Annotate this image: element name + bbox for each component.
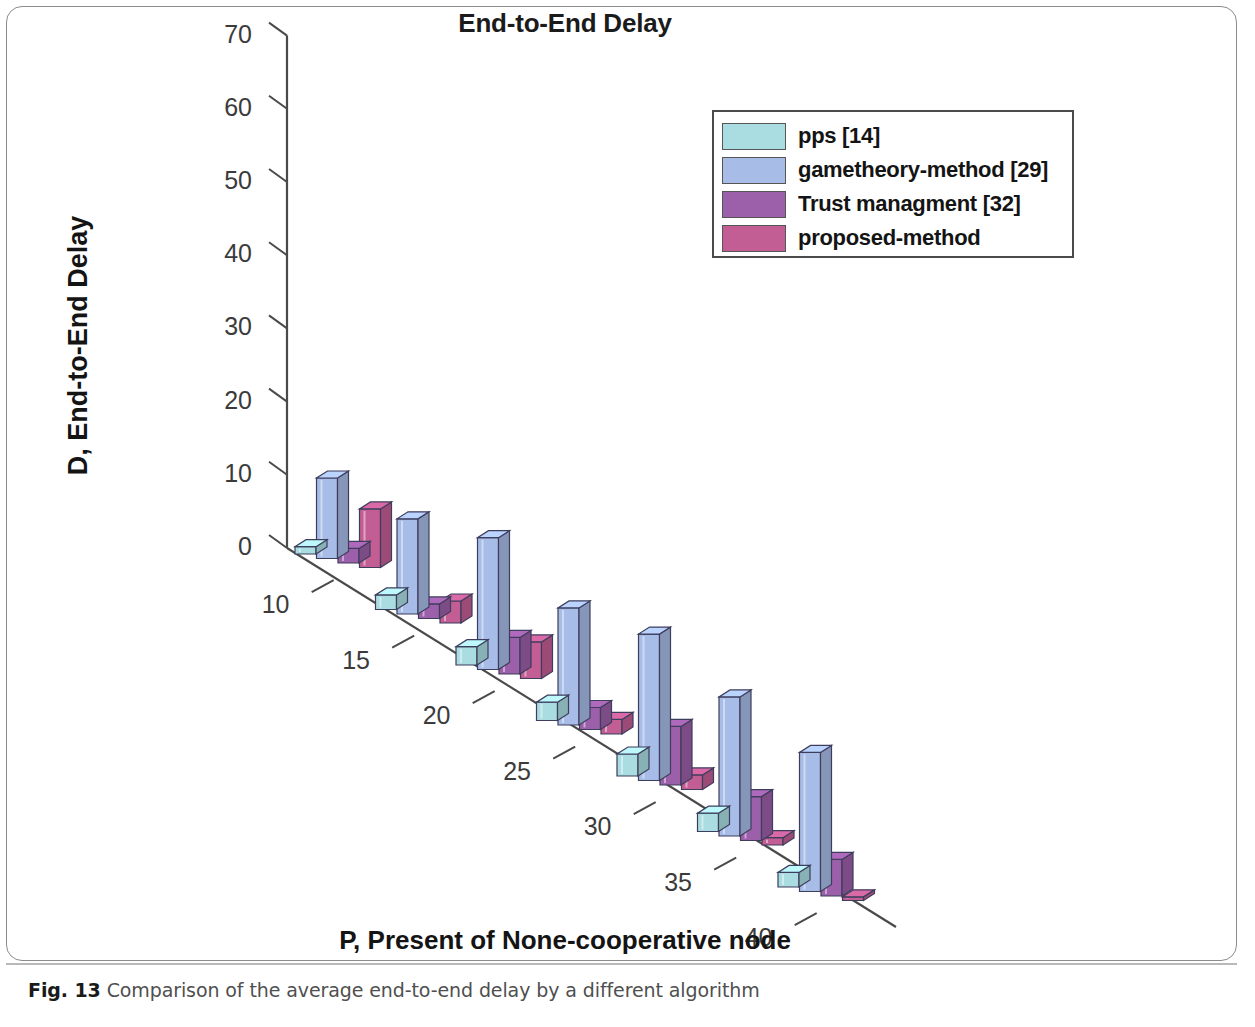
caption-number: Fig. 13 [28, 979, 101, 1001]
x-tick-label: 10 [262, 590, 290, 619]
legend-swatch-icon [722, 123, 786, 150]
legend-swatch-icon [722, 157, 786, 184]
bar-3d[interactable] [376, 588, 408, 610]
bar-3d[interactable] [698, 806, 730, 831]
caption-text: Comparison of the average end-to-end del… [107, 979, 760, 1001]
legend-item[interactable]: gametheory-method [29] [722, 154, 1062, 186]
legend-label: proposed-method [798, 225, 981, 251]
legend-label: gametheory-method [29] [798, 157, 1048, 183]
y-axis-label: D, End-to-End Delay [63, 176, 94, 516]
x-tick-label: 35 [664, 868, 692, 897]
legend-item[interactable]: Trust managment [32] [722, 188, 1062, 220]
y-tick-label: 10 [192, 459, 252, 488]
figure-container: End-to-End Delay 01020304050607010152025… [0, 0, 1255, 1027]
legend-item[interactable]: pps [14] [722, 120, 1062, 152]
y-tick-label: 30 [192, 312, 252, 341]
legend-label: pps [14] [798, 123, 880, 149]
chart-legend: pps [14]gametheory-method [29]Trust mana… [712, 110, 1074, 258]
x-tick-label: 20 [423, 701, 451, 730]
y-tick-label: 70 [192, 20, 252, 49]
y-tick-label: 60 [192, 93, 252, 122]
y-axis-ticks [269, 23, 287, 548]
bar-3d[interactable] [617, 747, 649, 776]
bar-3d[interactable] [456, 640, 488, 665]
x-tick-label: 30 [584, 812, 612, 841]
legend-swatch-icon [722, 191, 786, 218]
legend-item[interactable]: proposed-method [722, 222, 1062, 254]
y-tick-label: 40 [192, 239, 252, 268]
y-tick-label: 20 [192, 386, 252, 415]
legend-label: Trust managment [32] [798, 191, 1021, 217]
x-tick-label: 25 [503, 757, 531, 786]
y-tick-label: 50 [192, 166, 252, 195]
legend-swatch-icon [722, 225, 786, 252]
figure-caption: Fig. 13 Comparison of the average end-to… [28, 979, 760, 1001]
x-axis-label: P, Present of None-cooperative node [0, 925, 1130, 956]
x-tick-label: 15 [342, 646, 370, 675]
bar-3d[interactable] [537, 695, 569, 720]
bar-3d[interactable] [778, 865, 810, 887]
y-tick-label: 0 [192, 532, 252, 561]
